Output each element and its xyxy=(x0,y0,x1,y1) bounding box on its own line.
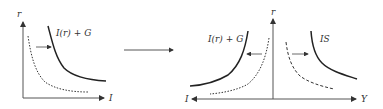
right-x-axis-left-label: I xyxy=(184,94,189,104)
is-curve-label: IS xyxy=(319,34,330,44)
right-y-axis-label: r xyxy=(271,7,276,17)
is-curve-diagram: r I I(r) + G r I Y I(r) + G IS xyxy=(0,0,383,109)
right-panel: r I Y I(r) + G IS xyxy=(184,7,368,104)
left-curve-label: I(r) + G xyxy=(55,28,91,38)
right-x-axis-right-label: Y xyxy=(361,94,368,104)
left-panel: r I I(r) + G xyxy=(17,9,113,103)
investment-curve-original xyxy=(28,36,88,92)
left-x-axis-label: I xyxy=(108,93,113,103)
mirrored-curve-label: I(r) + G xyxy=(207,34,243,44)
is-curve-original xyxy=(286,42,334,89)
left-y-axis-label: r xyxy=(17,9,22,19)
is-curve-shifted xyxy=(311,31,357,79)
mirrored-investment-curve-original xyxy=(210,38,269,94)
